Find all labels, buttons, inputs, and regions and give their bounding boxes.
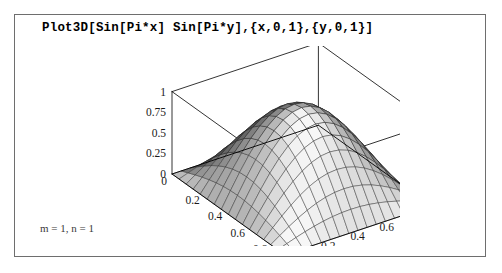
surface-mesh bbox=[172, 102, 400, 246]
axis-tick-label: 0.8 bbox=[253, 243, 268, 246]
axis-tick-label: 0.75 bbox=[146, 106, 166, 118]
plot3d-input-expression: Plot3D[Sin[Pi*x] Sin[Pi*y],{x,0,1},{y,0,… bbox=[42, 21, 373, 35]
axis-tick-label: 0.5 bbox=[152, 127, 167, 139]
plot-caption: m = 1, n = 1 bbox=[40, 222, 94, 234]
axis-tick-label: 0.2 bbox=[321, 240, 336, 246]
axis-tick-label: 0.25 bbox=[146, 147, 166, 159]
axis-tick-label: 0 bbox=[161, 175, 167, 187]
axis-tick-label: 1 bbox=[160, 86, 166, 98]
screenshot-root: Plot3D[Sin[Pi*x] Sin[Pi*y],{x,0,1},{y,0,… bbox=[0, 0, 502, 273]
axis-tick-label: 0.6 bbox=[231, 227, 246, 239]
plot3d-graphic: 00.250.50.75100.20.40.60.8100.20.40.60.8… bbox=[120, 46, 400, 246]
surface-plot-svg: 00.250.50.75100.20.40.60.8100.20.40.60.8… bbox=[120, 46, 400, 246]
axis-tick-label: 0.6 bbox=[380, 221, 395, 233]
axis-tick-label: 0.4 bbox=[208, 210, 223, 222]
axis-tick-label: 0.2 bbox=[185, 194, 200, 206]
axis-tick-label: 0.4 bbox=[350, 230, 365, 242]
